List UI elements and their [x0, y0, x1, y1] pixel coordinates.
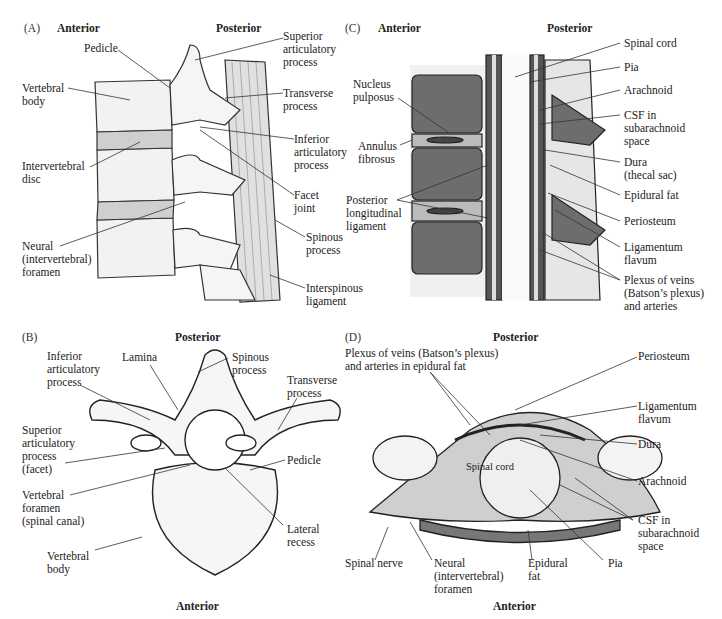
label-a-neural-foramen: Neural (intervertebral) foramen	[22, 240, 92, 279]
label-a-vertebral-body: Vertebral body	[22, 82, 64, 108]
panel-b-posterior-heading: Posterior	[175, 331, 220, 343]
label-c-periosteum: Periosteum	[624, 215, 676, 228]
panel-b-label: (B)	[22, 331, 37, 343]
panel-d-posterior-heading: Posterior	[493, 331, 538, 343]
label-b-spinous-process: Spinous process	[232, 351, 269, 377]
label-b-vertebral-foramen: Vertebral foramen (spinal canal)	[22, 489, 84, 528]
label-a-intervertebral-disc: Intervertebral disc	[22, 160, 85, 186]
panel-d-label: (D)	[345, 331, 361, 343]
label-a-inferior-articular-process: Inferior articulatory process	[294, 133, 347, 172]
panel-d-drawing	[370, 413, 662, 543]
label-d-epidural-fat: Epidural fat	[528, 557, 568, 583]
label-c-spinal-cord: Spinal cord	[624, 37, 677, 50]
label-b-vertebral-body: Vertebral body	[47, 550, 89, 576]
panel-b-anterior-heading: Anterior	[176, 600, 219, 612]
label-d-spinal-nerve: Spinal nerve	[345, 557, 403, 570]
panel-d-anterior-heading: Anterior	[493, 600, 536, 612]
label-c-csf: CSF in subarachnoid space	[624, 109, 685, 148]
label-d-pia: Pia	[608, 557, 623, 570]
label-d-periosteum: Periosteum	[638, 350, 690, 363]
label-c-pia: Pia	[624, 61, 639, 74]
label-d-csf: CSF in subarachnoid space	[638, 514, 699, 553]
label-d-plexus-of-veins: Plexus of veins (Batson’s plexus) and ar…	[345, 347, 498, 373]
label-b-lateral-recess: Lateral recess	[287, 523, 320, 549]
label-d-neural-foramen: Neural (intervertebral) foramen	[434, 557, 504, 596]
label-c-nucleus-pulposus: Nucleus pulposus	[353, 78, 394, 104]
label-c-epidural-fat: Epidural fat	[624, 189, 679, 202]
panel-a-drawing	[95, 45, 280, 302]
label-c-posterior-longitudinal-ligament: Posterior longitudinal ligament	[346, 194, 402, 233]
label-c-annulus-fibrosus: Annulus fibrosus	[358, 140, 397, 166]
label-d-arachnoid: Arachnoid	[638, 475, 687, 488]
label-a-spinous-process: Spinous process	[306, 231, 343, 257]
label-d-spinal-cord: Spinal cord	[466, 460, 514, 473]
label-a-facet-joint: Facet joint	[294, 189, 319, 215]
label-a-superior-articular-process: Superior articulatory process	[283, 30, 336, 69]
label-c-ligamentum-flavum: Ligamentum flavum	[624, 241, 683, 267]
label-c-plexus-of-veins: Plexus of veins (Batson’s plexus) and ar…	[624, 274, 704, 313]
label-b-superior-articular-process: Superior articulatory process (facet)	[22, 424, 75, 476]
panel-c-anterior-heading: Anterior	[378, 22, 421, 34]
label-a-pedicle: Pedicle	[84, 42, 118, 55]
label-a-interspinous-ligament: Interspinous ligament	[306, 282, 363, 308]
label-d-dura: Dura	[638, 438, 661, 451]
label-b-lamina: Lamina	[122, 351, 157, 364]
panel-a-posterior-heading: Posterior	[216, 22, 261, 34]
label-b-inferior-articular-process: Inferior articulatory process	[47, 350, 100, 389]
label-d-ligamentum-flavum: Ligamentum flavum	[638, 400, 697, 426]
panel-a-label: (A)	[24, 22, 40, 34]
label-a-transverse-process: Transverse process	[283, 87, 333, 113]
panel-a-anterior-heading: Anterior	[57, 22, 100, 34]
label-b-pedicle: Pedicle	[287, 454, 321, 467]
label-c-arachnoid: Arachnoid	[624, 84, 673, 97]
label-b-transverse-process: Transverse process	[287, 374, 337, 400]
label-c-dura: Dura (thecal sac)	[624, 156, 677, 182]
panel-c-label: (C)	[345, 22, 360, 34]
panel-c-posterior-heading: Posterior	[547, 22, 592, 34]
